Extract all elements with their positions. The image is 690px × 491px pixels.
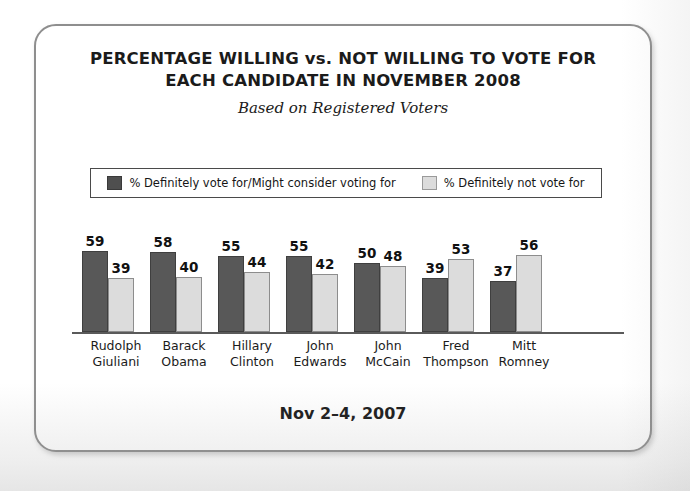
category-label: MittRomney	[490, 338, 558, 369]
category-label-line: Clinton	[218, 354, 286, 370]
bar-column: 40	[176, 216, 202, 332]
legend-item-definitely-not-vote-for: % Definitely not vote for	[422, 176, 585, 190]
bar-column: 56	[516, 216, 542, 332]
bar-group: 5048	[354, 216, 422, 332]
category-label: JohnMcCain	[354, 338, 422, 369]
category-label: HillaryClinton	[218, 338, 286, 369]
bar-group: 3953	[422, 216, 490, 332]
light-swatch-icon	[422, 176, 437, 190]
bar-series-2	[380, 266, 406, 332]
bar-value-label: 55	[290, 239, 309, 254]
bar-column: 48	[380, 216, 406, 332]
category-label-line: Rudolph	[82, 338, 150, 354]
bar-group: 5840	[150, 216, 218, 332]
bar-value-label: 56	[520, 238, 539, 253]
bar-group: 3756	[490, 216, 558, 332]
axis-baseline	[72, 332, 624, 334]
category-label-line: Obama	[150, 354, 218, 370]
bar-groups: 5939584055445542504839533756	[82, 216, 618, 332]
bar-column: 55	[218, 216, 244, 332]
bar-series-2	[312, 274, 338, 332]
legend-label-2: % Definitely not vote for	[444, 176, 585, 190]
category-label-line: Thompson	[422, 354, 490, 370]
category-label-line: Hillary	[218, 338, 286, 354]
bar-column: 42	[312, 216, 338, 332]
chart-title-line-1: PERCENTAGE WILLING vs. NOT WILLING TO VO…	[36, 48, 650, 70]
category-axis-labels: RudolphGiulianiBarackObamaHillaryClinton…	[82, 338, 618, 369]
plot-area: 5939584055445542504839533756	[50, 216, 640, 334]
category-label: JohnEdwards	[286, 338, 354, 369]
category-label-line: Romney	[490, 354, 558, 370]
bar-column: 59	[82, 216, 108, 332]
legend-item-definitely-vote-for: % Definitely vote for/Might consider vot…	[107, 176, 395, 190]
bar-value-label: 39	[426, 261, 445, 276]
bar-series-2	[516, 255, 542, 332]
bar-value-label: 53	[452, 242, 471, 257]
category-label: FredThompson	[422, 338, 490, 369]
bar-series-1	[422, 278, 448, 332]
bar-value-label: 44	[248, 255, 267, 270]
bar-series-2	[108, 278, 134, 332]
category-label-line: Fred	[422, 338, 490, 354]
category-label-line: Edwards	[286, 354, 354, 370]
bar-value-label: 50	[358, 246, 377, 261]
bar-column: 53	[448, 216, 474, 332]
bar-series-1	[218, 256, 244, 332]
category-label: BarackObama	[150, 338, 218, 369]
bar-group: 5544	[218, 216, 286, 332]
footer-date: Nov 2–4, 2007	[36, 404, 650, 423]
bar-series-1	[286, 256, 312, 332]
category-label: RudolphGiuliani	[82, 338, 150, 369]
bar-series-2	[176, 277, 202, 332]
bar-series-1	[82, 251, 108, 332]
bar-value-label: 42	[316, 257, 335, 272]
bar-column: 44	[244, 216, 270, 332]
bar-value-label: 55	[222, 239, 241, 254]
chart-legend: % Definitely vote for/Might consider vot…	[90, 168, 602, 198]
category-label-line: McCain	[354, 354, 422, 370]
chart-card: PERCENTAGE WILLING vs. NOT WILLING TO VO…	[34, 24, 652, 452]
chart-subtitle: Based on Registered Voters	[36, 99, 650, 117]
bar-column: 50	[354, 216, 380, 332]
bar-column: 58	[150, 216, 176, 332]
bar-group: 5939	[82, 216, 150, 332]
bar-value-label: 40	[180, 260, 199, 275]
dark-swatch-icon	[107, 176, 122, 190]
bar-value-label: 59	[86, 234, 105, 249]
category-label-line: Giuliani	[82, 354, 150, 370]
bar-series-1	[354, 263, 380, 332]
category-label-line: John	[354, 338, 422, 354]
bar-group: 5542	[286, 216, 354, 332]
bar-column: 39	[108, 216, 134, 332]
bar-column: 39	[422, 216, 448, 332]
bar-value-label: 39	[112, 261, 131, 276]
bar-column: 37	[490, 216, 516, 332]
bar-series-1	[150, 252, 176, 332]
chart-title-line-2: EACH CANDIDATE IN NOVEMBER 2008	[36, 70, 650, 92]
category-label-line: John	[286, 338, 354, 354]
bar-column: 55	[286, 216, 312, 332]
bar-series-1	[490, 281, 516, 332]
bar-series-2	[448, 259, 474, 332]
legend-label-1: % Definitely vote for/Might consider vot…	[129, 176, 395, 190]
bar-series-2	[244, 272, 270, 332]
bar-value-label: 48	[384, 249, 403, 264]
bar-value-label: 37	[494, 264, 513, 279]
bar-value-label: 58	[154, 235, 173, 250]
title-block: PERCENTAGE WILLING vs. NOT WILLING TO VO…	[36, 48, 650, 117]
category-label-line: Barack	[150, 338, 218, 354]
category-label-line: Mitt	[490, 338, 558, 354]
